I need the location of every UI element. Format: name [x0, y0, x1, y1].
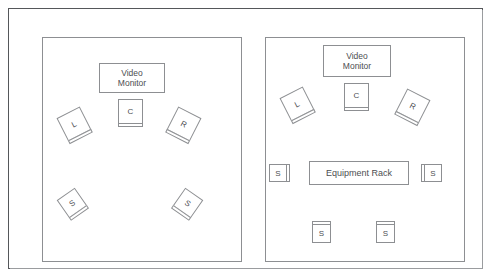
speaker-label: C	[128, 107, 134, 116]
right-room-speaker-surround-side-right: S	[424, 164, 442, 182]
right-room-speaker-surround-rear-right: S	[376, 224, 395, 243]
right-room-speaker-center: C	[344, 83, 369, 108]
right-room-speaker-surround-rear-left: S	[312, 224, 331, 243]
speaker-label: R	[179, 119, 188, 130]
speaker-label: L	[70, 119, 78, 129]
speaker-placement-diagram: Video MonitorCLRSSVideo MonitorEquipment…	[0, 0, 493, 280]
left-room-video-monitor: Video Monitor	[99, 63, 165, 93]
speaker-label: S	[183, 198, 193, 208]
speaker-label: S	[67, 198, 77, 208]
speaker-label: S	[275, 169, 280, 178]
left-room-speaker-center: C	[118, 99, 143, 124]
right-room-video-monitor: Video Monitor	[323, 45, 391, 77]
speaker-label: S	[430, 169, 435, 178]
speaker-label: C	[354, 91, 360, 100]
speaker-label: S	[319, 229, 324, 238]
right-room-equipment-rack: Equipment Rack	[309, 161, 409, 185]
speaker-label: L	[293, 99, 301, 109]
diagram-outer-frame: Video MonitorCLRSSVideo MonitorEquipment…	[8, 8, 483, 269]
speaker-label: R	[408, 101, 417, 112]
speaker-label: S	[383, 229, 388, 238]
right-room-speaker-surround-side-left: S	[269, 164, 287, 182]
